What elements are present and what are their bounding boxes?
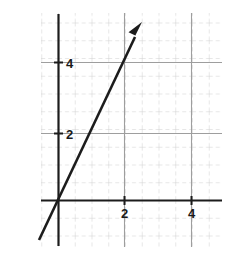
coordinate-plane: 2 4 2 4 [0,0,231,258]
x-tick-label-4: 4 [188,206,196,221]
x-tick-label-2: 2 [121,206,128,221]
y-tick-label-2: 2 [66,127,73,142]
graph-figure: B. [0,0,231,258]
y-tick-label-4: 4 [66,56,74,71]
